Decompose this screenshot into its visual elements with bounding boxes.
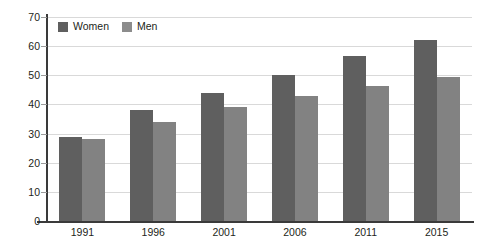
y-axis-tick-label: 20 bbox=[12, 158, 40, 168]
bar-women-2006[interactable] bbox=[272, 75, 295, 221]
bar-group bbox=[401, 17, 472, 221]
bar-group bbox=[189, 17, 260, 221]
bar-chart: 010203040506070 199119962001200620112015… bbox=[0, 0, 482, 249]
bar-group bbox=[330, 17, 401, 221]
y-axis-tick bbox=[41, 163, 47, 164]
x-axis-line bbox=[37, 221, 474, 223]
bar-women-1996[interactable] bbox=[130, 110, 153, 221]
y-axis-tick bbox=[41, 192, 47, 193]
y-axis-tick bbox=[41, 17, 47, 18]
bar-women-2015[interactable] bbox=[414, 40, 437, 221]
x-axis-tick-label: 2001 bbox=[189, 226, 260, 239]
x-axis-tick-label: 2011 bbox=[330, 226, 401, 239]
x-axis-tick-label: 1991 bbox=[47, 226, 118, 239]
bar-groups bbox=[47, 17, 472, 221]
y-axis-tick-label: 10 bbox=[12, 187, 40, 197]
y-axis-tick-label: 0 bbox=[12, 216, 40, 226]
x-axis-tick-label: 2006 bbox=[259, 226, 330, 239]
y-axis-tick-label: 30 bbox=[12, 129, 40, 139]
bar-group bbox=[259, 17, 330, 221]
x-axis-tick-labels: 199119962001200620112015 bbox=[47, 226, 472, 239]
bar-group bbox=[47, 17, 118, 221]
bar-women-1991[interactable] bbox=[59, 137, 82, 222]
x-axis-tick-label: 1996 bbox=[118, 226, 189, 239]
y-axis-tick bbox=[41, 46, 47, 47]
y-axis-tick bbox=[41, 75, 47, 76]
legend-item-men[interactable]: Men bbox=[122, 21, 157, 32]
bar-women-2001[interactable] bbox=[201, 93, 224, 221]
legend-swatch-men-icon bbox=[122, 22, 132, 32]
y-axis-tick-label: 70 bbox=[12, 12, 40, 22]
y-axis-tick-labels: 010203040506070 bbox=[6, 0, 40, 249]
legend-label: Men bbox=[137, 21, 157, 32]
bar-group bbox=[118, 17, 189, 221]
legend-swatch-women-icon bbox=[58, 22, 68, 32]
y-axis-tick bbox=[41, 104, 47, 105]
y-axis-tick bbox=[41, 134, 47, 135]
legend-label: Women bbox=[73, 21, 109, 32]
bar-men-1991[interactable] bbox=[82, 139, 105, 221]
bar-men-2001[interactable] bbox=[224, 107, 247, 221]
x-axis-tick-label: 2015 bbox=[401, 226, 472, 239]
bar-men-2015[interactable] bbox=[437, 77, 460, 221]
y-axis-tick-label: 50 bbox=[12, 70, 40, 80]
y-axis-tick-label: 40 bbox=[12, 99, 40, 109]
y-axis-tick-label: 60 bbox=[12, 41, 40, 51]
bar-women-2011[interactable] bbox=[343, 56, 366, 221]
bar-men-2006[interactable] bbox=[295, 96, 318, 221]
bar-men-1996[interactable] bbox=[153, 122, 176, 221]
bar-men-2011[interactable] bbox=[366, 86, 389, 222]
legend-item-women[interactable]: Women bbox=[58, 21, 109, 32]
chart-legend: WomenMen bbox=[58, 21, 157, 32]
